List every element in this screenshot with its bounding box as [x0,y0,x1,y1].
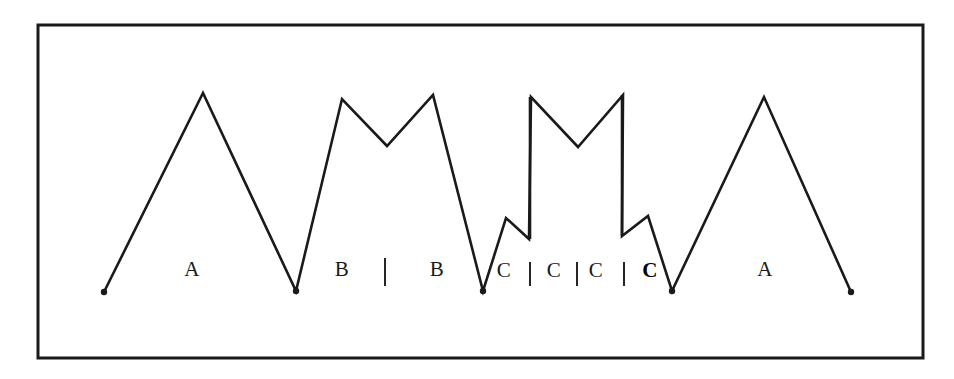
valley-dot-3 [669,288,675,294]
tick-c3-c4 [623,262,625,286]
tick-c1-c2 [529,262,531,286]
outer-rectangle-border [38,25,923,358]
label-a-left: A [184,259,200,280]
waveform-svg [0,0,954,379]
label-c-4: C [642,260,658,281]
zigzag-waveform-polyline [104,93,851,292]
valley-dot-2 [480,288,486,294]
tick-c2-c3 [576,262,578,286]
label-c-2: C [547,260,562,281]
label-c-3: C [589,260,604,281]
valley-dot-1 [293,288,299,294]
start-dot [101,289,107,295]
label-b-left: B [335,259,350,280]
endpoint-dots-group [101,288,854,295]
tick-between-b-b [384,258,386,286]
label-a-right: A [757,259,773,280]
label-c-1: C [497,260,512,281]
figure-container: ABBCCCCA [0,0,954,379]
end-dot [848,289,854,295]
label-b-right: B [430,259,445,280]
